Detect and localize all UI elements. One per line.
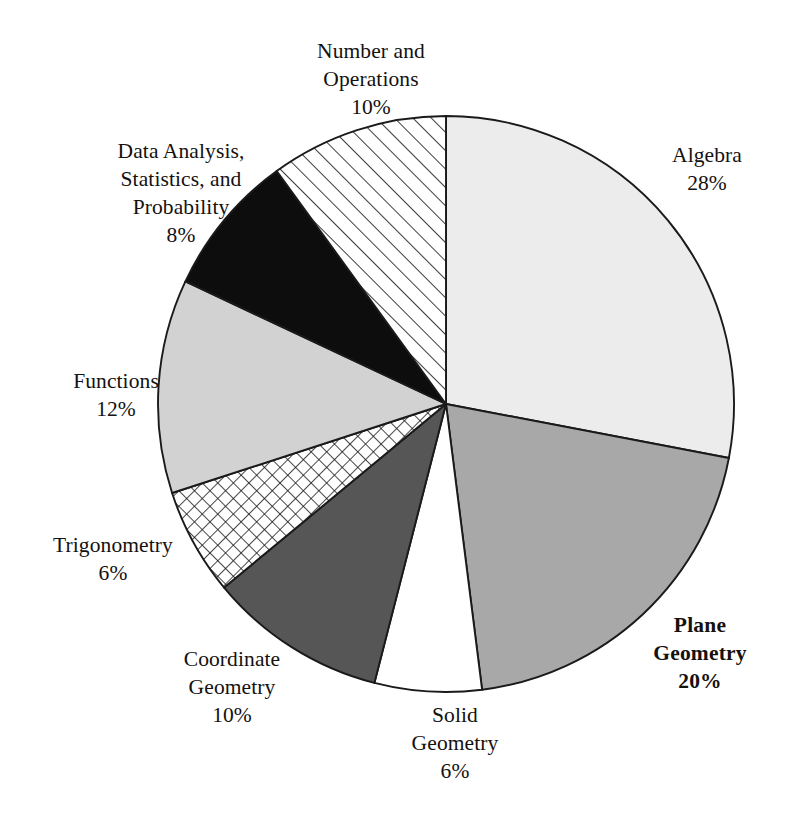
slice-label-solid-geometry: Solid Geometry 6% (362, 702, 548, 786)
slice-label-functions: Functions 12% (16, 368, 216, 424)
slice-label-trigonometry: Trigonometry 6% (8, 532, 218, 588)
slice-label-number-and-operations: Number and Operations 10% (243, 38, 499, 122)
slice-label-coordinate-geometry: Coordinate Geometry 10% (124, 646, 340, 730)
pie-chart: Number and Operations 10% Data Analysis,… (0, 0, 812, 832)
slice-label-plane-geometry: Plane Geometry 20% (592, 612, 808, 696)
slice-label-data-analysis: Data Analysis, Statistics, and Probabili… (58, 138, 304, 250)
slice-label-algebra: Algebra 28% (618, 142, 796, 198)
